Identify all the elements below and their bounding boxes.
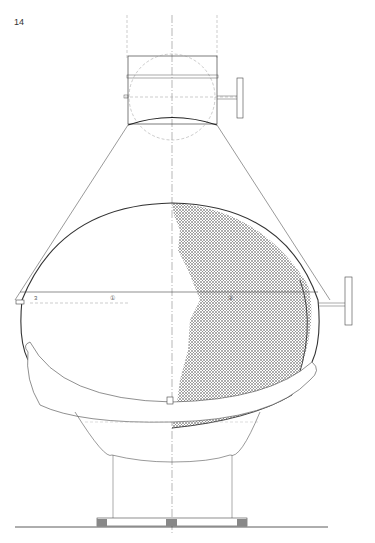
bowl-outline <box>21 203 172 360</box>
damper-handle-right <box>345 277 352 325</box>
technical-drawing: 3 ① ② <box>0 0 375 543</box>
label-circle-2: ② <box>228 295 233 301</box>
label-circle-1: ① <box>110 295 115 301</box>
bowl-clip <box>167 397 173 404</box>
flue-collar <box>124 54 243 140</box>
label-3: 3 <box>34 295 38 301</box>
damper-handle-top <box>237 78 243 118</box>
base-plate <box>97 518 247 526</box>
